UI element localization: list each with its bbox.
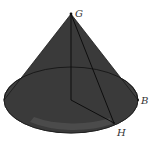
point-h-dot bbox=[113, 122, 115, 124]
label-g: G bbox=[75, 8, 83, 19]
point-b-dot bbox=[137, 99, 139, 101]
label-h: H bbox=[116, 127, 126, 138]
cone-diagram: G B H bbox=[0, 0, 154, 142]
label-b: B bbox=[140, 95, 148, 106]
apex-point bbox=[70, 13, 73, 16]
